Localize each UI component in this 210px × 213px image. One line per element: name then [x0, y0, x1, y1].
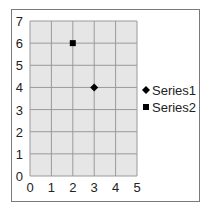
x-tick-label: 1 — [48, 180, 55, 195]
y-tick-label: 7 — [16, 14, 23, 29]
y-tick-label: 6 — [16, 36, 23, 51]
x-tick-label: 0 — [26, 180, 33, 195]
y-tick-label: 5 — [16, 58, 23, 73]
plot-area — [30, 21, 137, 176]
legend-diamond-icon — [142, 86, 150, 94]
legend-label-series1: Series1 — [152, 83, 196, 98]
y-tick-label: 4 — [16, 80, 23, 95]
data-point-series2 — [70, 40, 76, 46]
x-tick-label: 5 — [133, 180, 140, 195]
x-tick-label: 2 — [69, 180, 76, 195]
scatter-chart: 01234501234567Series1Series2 — [0, 0, 210, 213]
x-tick-label: 3 — [91, 180, 98, 195]
legend-label-series2: Series2 — [152, 100, 196, 115]
y-tick-label: 3 — [16, 103, 23, 118]
y-tick-label: 0 — [16, 169, 23, 184]
legend-square-icon — [143, 104, 149, 110]
y-tick-label: 2 — [16, 125, 23, 140]
y-tick-label: 1 — [16, 147, 23, 162]
x-tick-label: 4 — [112, 180, 119, 195]
